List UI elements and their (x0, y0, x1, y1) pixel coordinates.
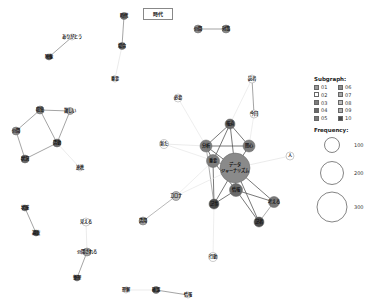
network-node: 公開 (12, 127, 20, 135)
node-label: 新た (160, 140, 168, 147)
network-node: 考える (268, 197, 280, 208)
network-node: 収集 (36, 106, 45, 114)
edge (57, 111, 70, 143)
network-node: 対策 (221, 25, 231, 33)
network-node: 新た (160, 140, 169, 149)
node-label: 収集 (36, 106, 45, 113)
network-node: 難しい (64, 107, 76, 114)
node-label: 行動 (208, 253, 217, 260)
edge (176, 161, 213, 196)
frequency-circle (317, 192, 347, 222)
network-node: 必要 (174, 94, 183, 102)
subgraph-swatch (338, 100, 343, 105)
edge (16, 131, 25, 159)
node-label: 情報 (184, 291, 193, 298)
node-label: 状態 (21, 204, 30, 211)
node-label: 活用 (139, 217, 147, 224)
edge (40, 110, 57, 143)
node-label: 公開 (194, 25, 202, 32)
node-label: 時代 (120, 12, 129, 19)
subgraph-legend-item: 01 (314, 84, 336, 90)
edge (143, 196, 176, 221)
frequency-value: 200 (354, 170, 364, 176)
network-node: 見える (80, 218, 92, 226)
subgraph-legend-item: 07 (338, 92, 360, 98)
subgraph-legend-item: 08 (338, 100, 360, 106)
edge-layer (16, 16, 290, 295)
network-node: 状況 (21, 155, 30, 163)
node-label: 考える (268, 198, 280, 205)
node-label: 理解 (122, 286, 131, 293)
node-label: 難しい (64, 107, 76, 114)
node-label: 整理 (73, 274, 82, 281)
subgraph-id: 02 (321, 92, 327, 98)
edge (115, 46, 122, 79)
subgraph-id: 01 (321, 84, 327, 90)
node-label: 見える (80, 218, 92, 225)
network-node: 行動 (208, 253, 218, 262)
subgraph-swatch (338, 108, 343, 113)
subgraph-swatch (314, 92, 319, 97)
network-canvas: データジャーナリズム報道分析関心重要情報記事考える記者人新た必要読者今回コロナ活… (0, 0, 368, 302)
title-box: 時代 (143, 8, 173, 20)
subgraph-swatch (338, 85, 343, 90)
subgraph-legend-item: 04 (314, 107, 336, 113)
node-label: 対策 (221, 25, 231, 32)
subgraph-legend-title: Subgraph: (314, 76, 368, 82)
edge (252, 79, 254, 114)
subgraph-id: 07 (345, 92, 351, 98)
node-label: 情報 (232, 186, 241, 193)
frequency-legend: 100200300 (314, 133, 368, 233)
subgraph-legend-item: 10 (338, 115, 360, 121)
node-label: 重要 (209, 157, 218, 164)
network-node: 記者 (254, 217, 264, 227)
node-label: 場合 (118, 42, 127, 49)
subgraph-id: 05 (321, 115, 327, 121)
network-node: 理解 (122, 286, 131, 293)
edge (164, 144, 206, 146)
node-label: 確認 (152, 286, 161, 293)
network-node: 分析 (200, 140, 212, 152)
subgraph-id: 03 (321, 100, 327, 106)
frequency-value: 100 (354, 142, 364, 148)
subgraph-id: 08 (345, 100, 351, 106)
frequency-circle (325, 138, 340, 153)
node-label: 活動 (53, 139, 61, 146)
subgraph-swatch (338, 116, 343, 121)
subgraph-id: 10 (345, 115, 351, 121)
network-node: ありがとう (62, 33, 82, 40)
network-node: 重要 (111, 75, 120, 82)
node-label: 連携 (76, 164, 85, 171)
subgraph-legend-item: 02 (314, 92, 336, 98)
subgraph-swatch (338, 92, 343, 97)
subgraph-swatch (314, 85, 319, 90)
network-node: 重要 (207, 155, 220, 168)
subgraph-legend-item: 03 (314, 100, 336, 106)
subgraph-legend-grid: 01060207030804090510 (314, 84, 368, 121)
network-node: 時代 (120, 12, 129, 19)
edge (122, 16, 124, 46)
network-node: 整理 (73, 274, 82, 281)
edge (178, 98, 206, 146)
frequency-circle (321, 162, 344, 185)
edge (213, 204, 214, 257)
frequency-value: 300 (354, 204, 364, 210)
edge (25, 143, 57, 159)
network-node: 報道 (225, 119, 235, 129)
network-node: 公開される (77, 248, 97, 256)
node-label: 映像 (45, 53, 54, 60)
subgraph-id: 04 (321, 107, 327, 113)
network-node: 活動 (53, 139, 61, 147)
network-node: 記事 (209, 199, 219, 209)
edge (86, 222, 87, 252)
node-label: 公開される (77, 248, 97, 255)
subgraph-legend-item: 06 (338, 84, 360, 90)
network-node: 確認 (152, 286, 161, 293)
subgraph-swatch (314, 100, 319, 105)
node-label: 今回 (250, 110, 258, 117)
node-label: データ (229, 161, 241, 168)
subgraph-id: 09 (345, 107, 351, 113)
node-label: ジャーナリズム (221, 167, 249, 174)
network-node: 関心 (243, 140, 255, 152)
node-label: 重要 (111, 75, 120, 82)
